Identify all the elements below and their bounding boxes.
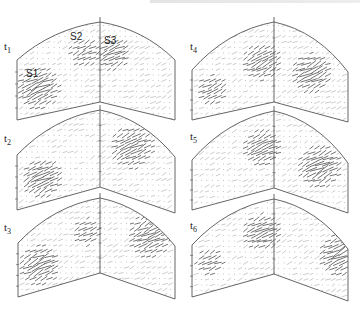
vector-field bbox=[18, 18, 172, 120]
panel-t5: t5 bbox=[190, 106, 348, 215]
vector-field bbox=[194, 18, 347, 120]
panel-outline bbox=[192, 22, 348, 122]
panel-t2: t2 bbox=[4, 105, 175, 214]
panel-t3: t3 bbox=[4, 193, 175, 302]
time-label-t6: t6 bbox=[190, 219, 197, 234]
vector-field bbox=[19, 107, 172, 214]
panel-t6: t6 bbox=[190, 194, 351, 303]
time-label-t4: t4 bbox=[190, 40, 197, 55]
panel-outline bbox=[18, 198, 175, 299]
time-label-t3: t3 bbox=[4, 221, 11, 236]
source-label-s1: S1 bbox=[26, 68, 39, 79]
quiver-figure: t1t2t3t4t5t6 S1S2S3 bbox=[0, 0, 364, 311]
vector-field bbox=[19, 195, 172, 303]
time-label-t5: t5 bbox=[190, 130, 197, 145]
vector-field bbox=[194, 107, 347, 214]
source-label-s2: S2 bbox=[70, 31, 83, 42]
time-label-t1: t1 bbox=[4, 40, 11, 55]
vector-field bbox=[193, 196, 350, 303]
time-label-t2: t2 bbox=[4, 132, 11, 147]
panel-group: t1t2t3t4t5t6 bbox=[4, 17, 351, 303]
panel-outline bbox=[17, 22, 175, 120]
source-labels: S1S2S3 bbox=[26, 31, 117, 79]
panel-t4: t4 bbox=[190, 17, 348, 122]
panel-outline bbox=[192, 111, 348, 213]
source-label-s3: S3 bbox=[104, 35, 117, 46]
